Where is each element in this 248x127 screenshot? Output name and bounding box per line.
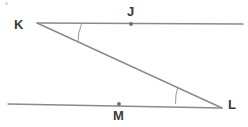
point-dot-M: [117, 102, 121, 106]
point-dot-J: [129, 22, 133, 26]
angle-arc-L: [175, 87, 177, 104]
angle-arc-K: [78, 24, 82, 43]
geometry-figure: K J M L: [0, 0, 248, 127]
point-label-m: M: [113, 109, 124, 122]
point-label-l: L: [228, 98, 236, 111]
point-label-k: K: [14, 18, 23, 31]
transversal-KL: [37, 23, 222, 108]
line-KJ-top: [37, 23, 243, 24]
geometry-canvas: [0, 0, 248, 127]
scan-artifact-speck: [5, 2, 8, 5]
point-label-j: J: [127, 5, 134, 18]
